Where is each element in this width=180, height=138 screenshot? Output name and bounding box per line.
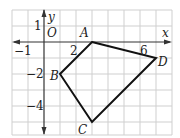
- vertex-label-D: D: [157, 55, 168, 69]
- tick-label-y-neg2: −2: [26, 67, 44, 81]
- vertex-label-C: C: [78, 123, 87, 137]
- tick-label-x-neg1: −1: [14, 44, 32, 58]
- vertex-label-B: B: [49, 69, 59, 83]
- tick-label-y-neg4: −4: [26, 99, 44, 113]
- tick-label-x-2: 2: [70, 44, 78, 58]
- tick-label-y-1: 1: [34, 19, 42, 33]
- y-axis-label: y: [47, 10, 55, 24]
- vertex-label-A: A: [79, 26, 89, 40]
- y-axis-down-arrow-icon: [42, 127, 47, 135]
- tick-label-x-6: 6: [140, 44, 148, 58]
- origin-label: O: [47, 26, 57, 40]
- x-axis-label: x: [162, 26, 169, 40]
- x-axis-right-arrow-icon: [164, 40, 172, 45]
- coordinate-plane: y x O −1 2 6 1 −2 −4 A D C B: [0, 0, 180, 138]
